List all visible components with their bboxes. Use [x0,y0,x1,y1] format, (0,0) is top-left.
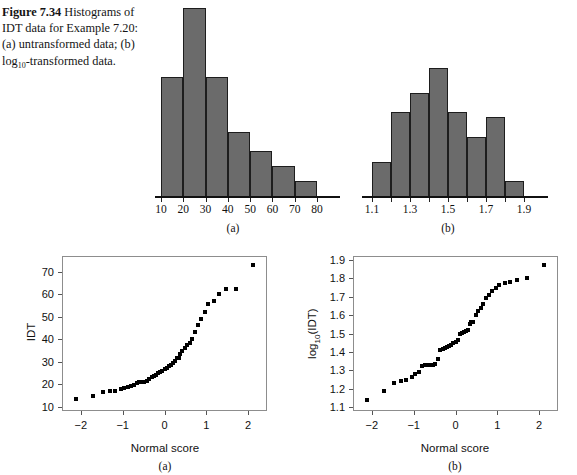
x-axis-label: −2 [366,419,379,431]
y-axis-label: 30 [20,356,54,368]
data-point [479,306,483,310]
ylabel-subscript: 10 [313,335,322,344]
histogram-xticklabel: 80 [311,203,323,215]
y-axis-tick [349,260,353,261]
data-point [183,346,187,350]
histogram-xtick [183,198,184,202]
histogram-xticklabel: 40 [222,203,234,215]
panel-tag-hist-a: (a) [227,222,240,234]
y-axis-label: 20 [20,378,54,390]
histogram-xticklabel: 70 [289,203,301,215]
histogram-xtick [295,198,296,202]
histogram-xticklabel: 60 [267,203,279,215]
y-axis-tick [58,339,62,340]
caption-tail: -transformed data. [26,54,116,68]
y-axis-label: 70 [20,266,54,278]
histogram-bar [272,166,294,196]
histogram-log10-transformed-bars [372,68,524,196]
qqplot-log10-idt-ylabel: log10(IDT) [306,299,321,369]
histogram-xticklabel: 30 [200,203,212,215]
histogram-xtick [410,198,411,202]
data-point [484,296,488,300]
histogram-untransformed-bars [161,8,317,196]
y-axis-label: 1.2 [311,383,345,395]
figure-number: Figure 7.34 [2,5,61,19]
histogram-xtick [228,198,229,202]
data-point [497,283,501,287]
histogram-xticklabel: 1.3 [403,203,417,215]
y-axis-tick [349,297,353,298]
y-axis-tick [349,407,353,408]
histogram-xticklabel: 1.1 [365,203,379,215]
histogram-xticklabel: 20 [178,203,190,215]
histogram-bar [206,77,228,196]
histogram-bar [295,181,317,196]
histogram-bar [410,93,429,196]
data-point [382,389,386,393]
x-axis-label: 1 [203,419,209,431]
data-point [399,379,403,383]
histogram-xticklabel: 10 [155,203,167,215]
panel-tag-hist-b: (b) [441,222,454,234]
data-point [433,362,437,366]
qqplot-log10-idt-xlabel: Normal score [421,442,489,454]
data-point [542,263,546,267]
data-point [234,287,238,291]
histogram-xtick [161,198,162,202]
histogram-untransformed-xticklabels: 1020304050607080 [161,203,317,219]
histogram-bar [448,112,467,196]
histogram-xtick [486,198,487,202]
histogram-xtick [467,198,468,202]
figure-caption: Figure 7.34 Histograms of IDT data for E… [2,4,142,74]
histogram-xticklabel: 1.5 [441,203,455,215]
data-point [217,292,221,296]
histogram-log10-transformed-xticklabels: 1.11.31.51.71.9 [372,203,524,219]
y-axis-tick [349,315,353,316]
data-point [177,356,181,360]
data-point [508,280,512,284]
qqplot-idt-ylabel: IDT [25,307,37,357]
data-point [206,302,210,306]
x-axis-tick [206,411,207,415]
y-axis-label: 60 [20,288,54,300]
data-point [417,370,421,374]
y-axis-tick [58,384,62,385]
histogram-xtick [505,198,506,202]
data-point [224,287,228,291]
x-axis-tick [165,411,166,415]
qqplot-log10-idt: 1.11.21.31.41.51.61.71.81.9 −2−1012 log1… [295,250,577,475]
x-axis-tick [497,411,498,415]
histogram-xtick [317,198,318,202]
data-point [474,313,478,317]
histogram-bar [486,117,505,196]
data-point [392,381,396,385]
data-point [494,286,498,290]
data-point [456,338,460,342]
histogram-xtick [448,198,449,202]
histogram-bar [228,132,250,196]
data-point [466,328,470,332]
data-point [471,320,475,324]
data-point [193,330,197,334]
data-point [365,398,369,402]
histogram-bar [161,77,183,196]
histogram-bar [467,137,486,196]
histogram-bar [391,112,410,196]
data-point [476,309,480,313]
y-axis-tick [349,389,353,390]
y-axis-tick [58,407,62,408]
x-axis-tick [123,411,124,415]
y-axis-tick [349,278,353,279]
y-axis-label: 1.1 [311,401,345,413]
y-axis-label: 1.8 [311,272,345,284]
panel-tag-qq-b: (b) [448,460,461,472]
data-point [196,323,200,327]
histogram-xtick [429,198,430,202]
data-point [199,317,203,321]
data-point [487,293,491,297]
histogram-bar [429,68,448,196]
data-point [101,390,105,394]
x-axis-label: −1 [407,419,420,431]
data-point [436,357,440,361]
x-axis-label: 1 [494,419,500,431]
